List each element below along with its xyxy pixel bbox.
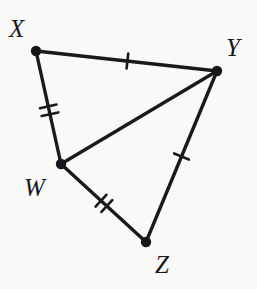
tick-mark-XW-1: [40, 105, 57, 109]
vertex-label-Y: Y: [226, 35, 240, 60]
vertex-dot-Z: [141, 237, 151, 247]
vertex-dot-X: [31, 46, 41, 56]
tick-mark-XY-1: [127, 54, 129, 69]
segment-WY-diagonal: [61, 71, 217, 164]
vertex-label-X: X: [9, 16, 24, 41]
vertex-label-W: W: [24, 175, 45, 200]
vertex-label-Z: Z: [155, 252, 169, 277]
vertex-dot-Y: [212, 66, 222, 76]
tick-mark-XW-2: [42, 112, 59, 116]
segment-WZ: [61, 164, 146, 242]
quadrilateral-diagram: [0, 0, 257, 289]
geometry-figure: X Y W Z: [0, 0, 257, 289]
segments-group: [36, 51, 217, 242]
vertex-dots-group: [31, 46, 222, 247]
vertex-dot-W: [56, 159, 66, 169]
